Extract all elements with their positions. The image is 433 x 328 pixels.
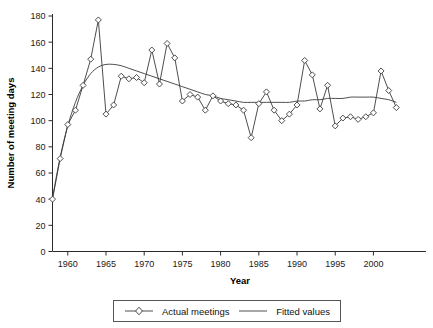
x-tick-label: 1960 [58, 259, 78, 269]
data-point-marker [317, 106, 323, 112]
data-point-marker [134, 74, 140, 80]
y-tick-label: 40 [35, 195, 45, 205]
data-point-marker [88, 56, 94, 62]
data-point-marker [348, 114, 354, 120]
x-tick-label: 1990 [287, 259, 307, 269]
y-tick-label: 180 [30, 11, 45, 21]
data-point-marker [202, 107, 208, 113]
chart-container: Number of meeting days Year 020406080100… [0, 0, 433, 328]
y-tick-label: 20 [35, 221, 45, 231]
data-point-marker [65, 122, 71, 128]
y-tick-label: 0 [40, 247, 45, 257]
y-axis-title: Number of meeting days [5, 78, 16, 189]
data-point-marker [80, 82, 86, 88]
meeting-days-line-chart: Number of meeting days Year 020406080100… [0, 0, 433, 328]
data-point-marker [233, 102, 239, 108]
x-tick-label: 1965 [96, 259, 116, 269]
x-tick-label: 1985 [249, 259, 269, 269]
plain-line-icon [238, 305, 268, 317]
line-with-diamond-marker-icon [124, 305, 154, 317]
data-point-marker [302, 57, 308, 63]
fitted-values-line [53, 64, 397, 198]
data-point-marker [248, 135, 254, 141]
chart-legend: Actual meetings Fitted values [113, 300, 341, 322]
legend-item-fitted-values: Fitted values [238, 305, 330, 317]
x-tick-label: 2000 [363, 259, 383, 269]
data-point-marker [156, 81, 162, 87]
actual-meetings-markers [50, 17, 400, 202]
data-point-marker [256, 101, 262, 107]
data-point-marker [325, 82, 331, 88]
data-point-marker [50, 196, 56, 202]
data-point-marker [149, 47, 155, 53]
x-axis-ticks: 196019651970197519801985199019952000 [58, 252, 384, 269]
legend-item-actual-meetings: Actual meetings [124, 305, 230, 317]
data-point-marker [271, 107, 277, 113]
y-tick-label: 100 [30, 116, 45, 126]
x-tick-label: 1970 [134, 259, 154, 269]
data-point-marker [309, 72, 315, 78]
y-tick-label: 80 [35, 142, 45, 152]
data-point-marker [225, 101, 231, 107]
data-point-marker [386, 88, 392, 94]
x-tick-label: 1980 [211, 259, 231, 269]
x-tick-label: 1995 [325, 259, 345, 269]
data-point-marker [164, 40, 170, 46]
legend-label-fitted-values: Fitted values [276, 306, 330, 317]
data-point-marker [210, 93, 216, 99]
legend-label-actual-meetings: Actual meetings [162, 306, 230, 317]
data-point-marker [241, 107, 247, 113]
data-point-marker [141, 80, 147, 86]
data-point-marker [118, 73, 124, 79]
data-point-marker [263, 89, 269, 95]
data-point-marker [355, 116, 361, 122]
data-point-marker [95, 17, 101, 23]
data-point-marker [172, 55, 178, 61]
y-tick-label: 60 [35, 168, 45, 178]
data-point-marker [393, 105, 399, 111]
x-axis-title: Year [230, 275, 250, 286]
data-point-marker [195, 94, 201, 100]
data-point-marker [363, 114, 369, 120]
data-point-marker [370, 110, 376, 116]
y-tick-label: 160 [30, 38, 45, 48]
data-point-marker [126, 76, 132, 82]
y-axis-ticks: 020406080100120140160180 [30, 11, 52, 257]
data-point-marker [378, 68, 384, 74]
x-tick-label: 1975 [172, 259, 192, 269]
y-tick-label: 120 [30, 90, 45, 100]
actual-meetings-line [53, 20, 397, 199]
data-point-marker [57, 156, 63, 162]
y-tick-label: 140 [30, 64, 45, 74]
